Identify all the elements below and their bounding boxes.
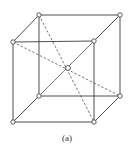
cube-edge-btr-ftr [94, 15, 120, 41]
corner-atom-bbr [118, 94, 122, 98]
corner-atom-ftr [92, 39, 96, 43]
bcc-unit-cell-diagram [0, 0, 134, 147]
cube-edge-bbr-fbr [94, 96, 120, 122]
corner-atom-ftl [11, 40, 15, 44]
cube-edge-bbl-fbl [13, 96, 39, 122]
figure-caption: (a) [0, 133, 134, 144]
corner-atom-fbl [11, 120, 15, 124]
corner-atom-btl [37, 13, 41, 17]
corner-atom-fbr [92, 120, 96, 124]
corner-atom-btr [118, 13, 122, 17]
corner-atom-bbl [37, 94, 41, 98]
body-center-atom [66, 66, 71, 71]
cube-edge-btl-ftl [13, 15, 39, 42]
cube-edge-ftl-ftr [13, 41, 94, 42]
